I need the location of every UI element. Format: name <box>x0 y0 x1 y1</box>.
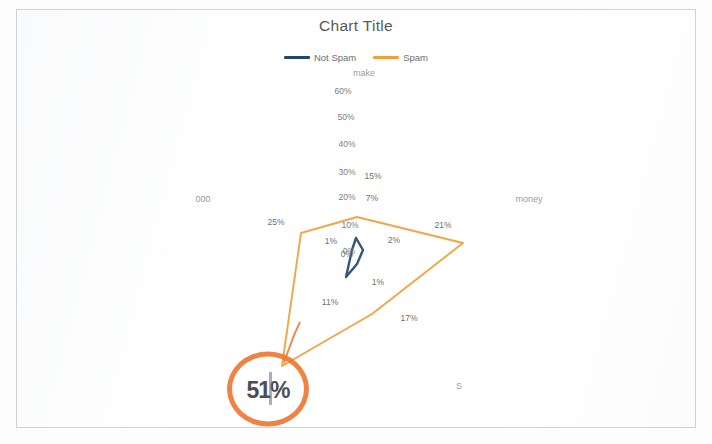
data-label-spam-17: 17% <box>400 313 417 323</box>
legend-item-not-spam[interactable]: Not Spam <box>284 52 356 63</box>
tick-label-60: 60% <box>334 86 351 96</box>
page-title: Chart Title <box>0 17 712 35</box>
tick-label-40: 40% <box>338 139 355 149</box>
legend-label-not-spam: Not Spam <box>314 52 356 63</box>
data-label-not-spam-1-left: 1% <box>325 236 337 246</box>
scan-artifact-stroke <box>269 372 272 405</box>
legend-item-spam[interactable]: Spam <box>373 52 428 63</box>
chart-legend: Not Spam Spam <box>0 52 712 63</box>
tick-label-10: 10% <box>341 220 358 230</box>
tick-label-20: 20% <box>338 192 355 202</box>
data-label-spam-15: 15% <box>364 171 381 181</box>
category-label-make: make <box>353 68 375 78</box>
tick-label-30: 30% <box>338 167 355 177</box>
legend-swatch-spam <box>373 56 399 59</box>
data-label-spam-51: 51% <box>246 377 289 404</box>
data-label-not-spam-1-right: 1% <box>372 277 384 287</box>
data-label-spam-25: 25% <box>267 217 284 227</box>
legend-label-spam: Spam <box>403 52 428 63</box>
legend-swatch-not-spam <box>284 56 310 59</box>
data-label-not-spam-0: 0% <box>341 249 353 259</box>
category-label-000: 000 <box>195 194 210 204</box>
data-label-not-spam-2: 2% <box>388 235 400 245</box>
data-label-spam-11: 11% <box>322 297 338 307</box>
data-label-spam-7: 7% <box>366 193 378 203</box>
tick-label-50: 50% <box>337 112 354 122</box>
data-label-spam-21: 21% <box>434 220 451 230</box>
category-label-s: S <box>456 381 462 391</box>
category-label-money: money <box>515 194 542 204</box>
